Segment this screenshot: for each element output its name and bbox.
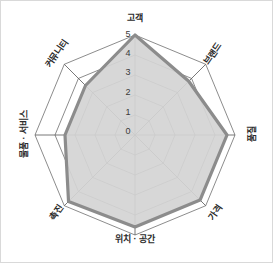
radar-chart-panel: 012345 고객브랜드품질가격위치 · 공간촉진물품 · 서비스커뮤니티 (0, 0, 273, 263)
data-polygon (65, 35, 227, 227)
tick-label-0: 0 (125, 126, 130, 136)
tick-label-4: 4 (125, 48, 130, 58)
axis-label-0: 고객 (127, 13, 143, 23)
axis-label-2: 품질 (246, 126, 257, 142)
axis-label-6: 물품 · 서비스 (18, 109, 29, 158)
tick-label-1: 1 (125, 107, 130, 117)
radar-chart-svg: 012345 고객브랜드품질가격위치 · 공간촉진물품 · 서비스커뮤니티 (1, 1, 273, 263)
axis-label-7: 커뮤니티 (42, 37, 69, 70)
data-series-polygon-0 (65, 35, 227, 227)
axis-label-3: 가격 (206, 203, 224, 222)
tick-label-2: 2 (125, 87, 130, 97)
tick-label-5: 5 (125, 29, 130, 39)
axis-label-1: 브랜드 (201, 40, 224, 67)
axis-label-5: 촉진 (47, 203, 65, 222)
tick-label-3: 3 (125, 67, 130, 77)
axis-label-4: 위치 · 공간 (115, 233, 156, 244)
